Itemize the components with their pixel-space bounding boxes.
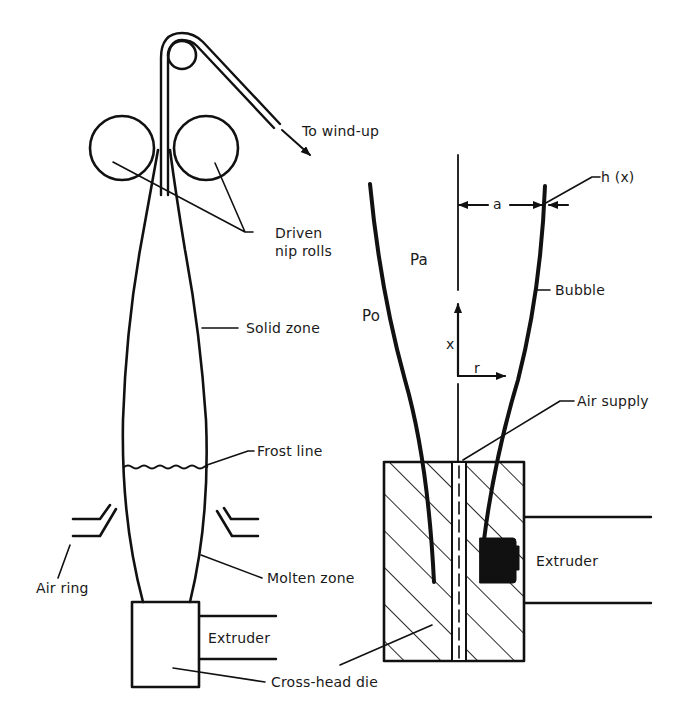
label-axis-r: r — [474, 360, 480, 376]
label-extruder-left: Extruder — [208, 630, 270, 646]
label-driven: Driven — [275, 225, 322, 241]
leader-nip-rolls — [113, 162, 253, 232]
air-ring-left-upper — [73, 505, 110, 519]
label-nip-rolls: nip rolls — [275, 243, 332, 259]
label-molten-zone: Molten zone — [267, 570, 355, 586]
leader-molten-zone — [201, 555, 262, 578]
label-solid-zone: Solid zone — [246, 320, 320, 336]
label-extruder-right: Extruder — [536, 553, 598, 569]
label-crosshead-die: Cross-head die — [271, 674, 378, 690]
leader-frost-line — [207, 451, 254, 465]
label-pressure-outer: Po — [362, 308, 380, 324]
right-panel — [340, 155, 651, 665]
air-ring-right-lower — [217, 511, 258, 536]
film-blowing-diagram: To wind-up Driven nip rolls Solid zone F… — [0, 0, 676, 719]
bubble-left-wall — [123, 150, 158, 602]
label-pressure-inner: Pa — [410, 252, 428, 268]
nip-roll-right — [174, 116, 238, 180]
frost-line — [124, 466, 207, 469]
label-radius-a: a — [493, 196, 502, 212]
label-air-supply: Air supply — [577, 393, 649, 409]
air-ring-right-upper — [224, 508, 258, 519]
label-thickness-h: h (x) — [601, 169, 635, 185]
nip-roll-left — [90, 116, 154, 180]
label-to-windup: To wind-up — [302, 123, 379, 139]
label-air-ring: Air ring — [36, 580, 89, 596]
leader-h — [544, 177, 600, 204]
label-bubble: Bubble — [555, 282, 605, 298]
diagram-graphics — [0, 0, 676, 719]
leader-air-supply — [463, 401, 574, 460]
air-ring-left-lower — [73, 509, 116, 536]
melt-block — [480, 538, 519, 583]
label-frost-line: Frost line — [257, 443, 323, 459]
label-axis-x: x — [446, 336, 455, 352]
bubble-right-wall — [170, 150, 207, 602]
leader-air-ring — [58, 545, 70, 578]
left-panel — [58, 33, 310, 687]
leader-crosshead-die — [173, 668, 265, 682]
crosshead-die-box — [132, 602, 199, 687]
